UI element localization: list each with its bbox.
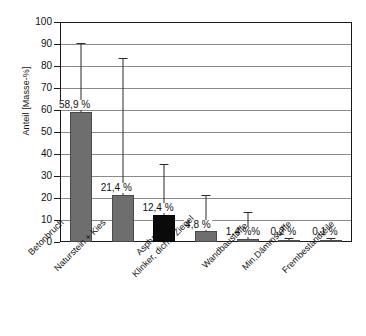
x-label-betonbruch: Betonbruch: [26, 217, 66, 257]
x-axis-labels: Betonbruch Naturstein + Kies Asphalt Kli…: [0, 0, 366, 336]
bar-chart: Anteil [Masse-%] 100 90 80 70 60 50 40 3…: [0, 0, 366, 336]
